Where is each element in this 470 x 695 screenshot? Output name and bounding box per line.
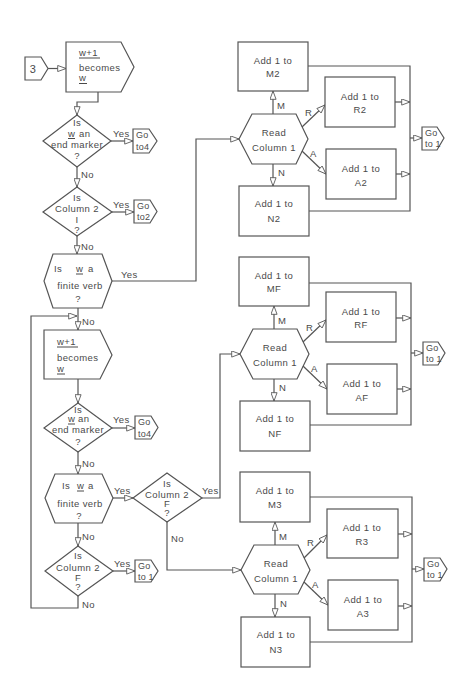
box-line-1: Add 1 to [255,270,294,281]
goto-line-1: Go [427,559,439,569]
branch-label-a: A [312,579,319,590]
goto-connector-1: Go to 1 [422,127,444,150]
box-line-1: Add 1 to [342,306,381,317]
box-add-to-n: Add 1 to N3 [241,617,310,667]
process-box [239,257,309,306]
goto-line-1: Go [138,417,150,427]
decision-variable: w [67,413,75,424]
goto-connector-2: Go to2 [134,200,157,223]
process-box [327,509,398,558]
decision-line-1: Is [73,192,81,203]
goto-line-2: to4 [136,142,149,152]
box-line-1: Add 1 to [256,485,295,496]
goto-line-2: to4 [138,429,151,439]
process-box [240,401,310,451]
process-w-next-becomes-w-top: w+1 becomes w [66,42,134,92]
goto-line-1: Go [136,130,148,140]
read-column-hexagon: Read Column 1 [239,114,308,164]
read-column-hexagon: Read Column 1 [241,545,310,594]
goto-line-2: to 1 [138,572,154,582]
box-line-1: Add 1 to [254,55,293,66]
branch-label-a: A [311,363,318,374]
decision-line-1-rest: a [88,480,94,491]
process-line-1: w+1 [78,47,98,58]
goto-line-1: Go [425,128,437,138]
read-line-2: Column 1 [254,573,298,584]
decision-variable: w [75,263,83,274]
branch-label-n: N [280,598,287,609]
no-label: No [81,169,94,180]
box-line-1: Add 1 to [257,629,296,640]
decision-finite-verb-top: Is w a finite verb ? [44,254,112,308]
read-line-2: Column 1 [253,357,297,368]
decision-line-1: Is [62,480,70,491]
goto-line-2: to 1 [426,354,442,364]
box-line-2: N3 [270,644,283,655]
decision-line-3: end marker [51,139,103,150]
branch-label-m: M [278,315,286,326]
no-label: No [82,599,95,610]
flow-arrow [77,92,98,115]
yes-label: Yes [114,485,131,496]
process-line-2: becomes [57,352,98,363]
box-line-1: Add 1 to [256,413,295,424]
no-label: No [82,458,95,469]
goto-line-1: Go [426,343,438,353]
read-line-1: Read [264,558,288,569]
goto-line-2: to 1 [427,570,443,580]
process-line-2: becomes [79,62,120,73]
decision-line-2: Column 2 [55,203,99,214]
box-line-2: A3 [357,608,369,619]
read-section-3: Add 1 to M3 Read Column 1 M N R A Add 1 … [240,472,447,667]
branch-label-n: N [278,167,285,178]
yes-label: Yes [113,414,130,425]
decision-line-1: Is [163,478,171,489]
process-box [238,42,308,91]
decision-line-4: ? [74,224,80,235]
box-add-to-r: Add 1 to RF [326,292,396,342]
process-box [328,580,398,630]
entry-connector: 3 [25,57,48,80]
goto-line-2: to2 [137,212,150,222]
box-line-2: M3 [268,499,282,510]
process-box [326,292,396,342]
read-line-1: Read [262,127,286,138]
branch-label-n: N [279,382,286,393]
decision-line-1: Is [54,263,62,274]
decision-column2-F-branch: Is Column 2 F ? [133,473,202,522]
process-box [240,472,310,522]
box-line-2: MF [267,283,282,294]
yes-label: Yes [202,485,219,496]
decision-column2-I: Is Column 2 I ? [43,187,112,236]
decision-line-4: ? [75,436,81,447]
no-label: No [82,316,95,327]
decision-line-4: ? [164,507,170,518]
no-label: No [82,531,95,542]
box-line-2: A2 [355,177,367,188]
read-line-2: Column 1 [252,142,296,153]
yes-label: Yes [113,199,130,210]
box-add-to-a: Add 1 to A2 [326,149,396,199]
branch-label-r: R [306,322,313,333]
process-line-3: w [78,72,86,83]
yes-arrow [202,354,240,498]
box-line-1: Add 1 to [344,594,383,605]
goto-line-1: Go [138,561,150,571]
no-label: No [81,241,94,252]
goto-connector-1: Go to 1 [135,560,158,582]
yes-label: Yes [121,269,138,280]
box-add-to-n: Add 1 to N2 [239,186,309,236]
yes-arrow [112,139,239,281]
process-box [326,149,396,199]
decision-line-3: ? [75,293,81,304]
decision-column2-F-loop: Is Column 2 F ? [45,546,113,596]
flowchart-diagram: 3 w+1 becomes w Is w an end marker ? Yes… [0,0,470,695]
branch-label-r: R [305,107,312,118]
read-section-F: Add 1 to MF Read Column 1 M N R A Add 1 … [239,257,445,451]
read-section-2: Add 1 to M2 Read Column 1 M N R A Add 1 … [238,42,444,236]
goto-line-2: to 1 [425,139,441,149]
goto-connector-1: Go to 1 [424,558,447,581]
decision-line-2: an [79,128,90,139]
box-line-2: R3 [356,536,369,547]
box-line-1: Add 1 to [342,163,381,174]
